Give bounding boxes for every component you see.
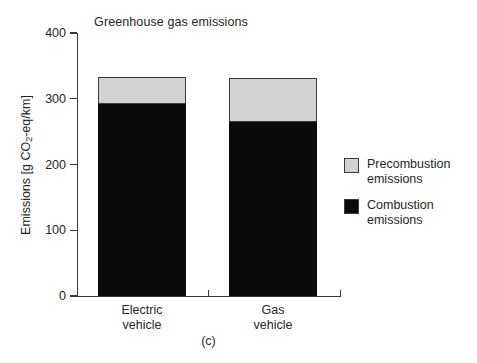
x-axis-category-label: Gasvehicle [229,303,317,333]
y-axis-tick-mark [70,230,77,231]
y-axis-line [77,33,78,297]
bar-segment-precombustion [98,77,186,104]
legend-item: Combustion emissions [344,198,450,228]
x-axis-tick-mark [340,290,341,297]
y-axis-tick-label: 400 [22,26,66,40]
y-axis-tick-mark [70,98,77,99]
y-axis-tick-label: 200 [22,158,66,172]
y-axis-tick-label: 300 [22,92,66,106]
y-axis-tick-mark [70,32,77,33]
legend-item: Precombustion emissions [344,157,450,187]
x-axis-tick-mark [208,290,209,297]
x-axis-category-label-line: vehicle [98,318,186,333]
figure-panel: Greenhouse gas emissions Emissions [g CO… [0,0,477,363]
figure-caption: (c) [77,334,340,348]
y-axis-tick-label: 100 [22,223,66,237]
bar-segment-combustion [229,122,317,296]
legend-swatch [344,158,359,173]
bar-segment-precombustion [229,78,317,122]
y-axis-tick-mark [70,295,77,296]
chart-title: Greenhouse gas emissions [0,15,477,29]
y-axis-tick-mark [70,164,77,165]
legend-label: Combustion emissions [367,198,434,228]
x-axis-category-label-line: vehicle [229,318,317,333]
chart-legend: Precombustion emissionsCombustion emissi… [344,157,450,239]
legend-label: Precombustion emissions [367,157,450,187]
x-axis-category-label-line: Gas [229,303,317,318]
x-axis-tick-mark [77,290,78,297]
bar-segment-combustion [98,104,186,296]
legend-swatch [344,199,359,214]
y-axis-title-subscript: 2 [24,137,34,142]
x-axis-category-label: Electricvehicle [98,303,186,333]
y-axis-title-head: Emissions [g CO [19,142,33,235]
x-axis-category-label-line: Electric [98,303,186,318]
y-axis-tick-label: 0 [22,289,66,303]
